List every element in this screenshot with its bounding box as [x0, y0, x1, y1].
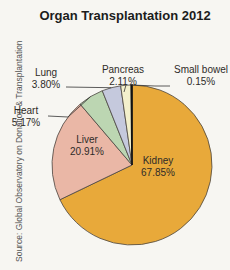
slice-small-bowel: [131, 85, 132, 165]
slice-label: Heart5.17%: [12, 105, 40, 128]
slice-label: Lung3.80%: [32, 67, 60, 90]
slice-label: Kidney67.85%: [141, 155, 175, 178]
pie-chart: Kidney67.85%Liver20.91%Heart5.17%Lung3.8…: [0, 0, 230, 270]
slice-label: Small bowel0.15%: [174, 64, 228, 87]
leader-line: [66, 87, 111, 88]
slice-label: Pancreas2.11%: [102, 64, 144, 87]
